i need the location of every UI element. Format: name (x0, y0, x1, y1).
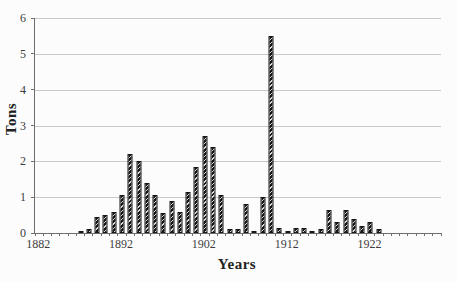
x-tick (184, 233, 185, 236)
y-axis-tick-labels: 0123456 (0, 18, 29, 233)
x-tick (291, 233, 292, 236)
bar-1914 (302, 228, 307, 233)
bar-1899 (177, 212, 182, 234)
x-tick (432, 233, 433, 236)
x-tick (250, 233, 251, 236)
year-slot-1883 (43, 18, 51, 233)
bar-1909 (260, 197, 265, 233)
y-tick-label-2: 2 (20, 154, 26, 169)
y-tick-1 (31, 197, 35, 198)
x-tick (109, 233, 110, 236)
bar-1889 (95, 217, 100, 233)
y-tick-4 (31, 89, 35, 90)
bar-1908 (252, 231, 257, 233)
bar-1919 (343, 210, 348, 233)
year-slot-1889 (93, 18, 101, 233)
year-slot-1923 (375, 18, 383, 233)
x-tick (51, 233, 52, 236)
bar-chart-figure: Tons 0123456 18821892190219121922 Years (0, 0, 457, 282)
x-tick (407, 233, 408, 236)
y-tick-label-1: 1 (20, 190, 26, 205)
year-slot-1885 (60, 18, 68, 233)
year-slot-1893 (126, 18, 134, 233)
x-tick (217, 233, 218, 236)
x-axis-tick-labels: 18821892190219121922 (34, 237, 440, 251)
bar-1898 (169, 201, 174, 233)
x-tick (266, 233, 267, 236)
year-slot-1912 (283, 18, 291, 233)
x-tick-label-1912: 1912 (275, 237, 299, 252)
plot-area (34, 18, 441, 234)
x-tick (308, 233, 309, 236)
x-tick (43, 233, 44, 236)
x-tick (300, 233, 301, 236)
bar-1890 (103, 215, 108, 233)
bar-1896 (153, 195, 158, 233)
bar-1907 (244, 204, 249, 233)
year-slot-1897 (159, 18, 167, 233)
x-tick-label-1902: 1902 (192, 237, 216, 252)
x-tick (275, 233, 276, 236)
bar-1913 (293, 228, 298, 233)
x-tick (76, 233, 77, 236)
bar-1920 (351, 219, 356, 233)
bar-1915 (310, 231, 315, 233)
year-slot-1907 (242, 18, 250, 233)
y-tick-6 (31, 18, 35, 19)
x-tick (150, 233, 151, 236)
bar-1892 (119, 195, 124, 233)
bar-1903 (211, 147, 216, 233)
year-slot-1921 (358, 18, 366, 233)
x-tick (441, 233, 442, 236)
year-slot-1887 (76, 18, 84, 233)
y-tick-label-3: 3 (20, 118, 26, 133)
year-slot-1918 (333, 18, 341, 233)
year-slot-1926 (399, 18, 407, 233)
bar-1904 (219, 195, 224, 233)
x-tick (68, 233, 69, 236)
year-slot-1888 (85, 18, 93, 233)
y-tick-label-5: 5 (20, 46, 26, 61)
year-slot-1905 (225, 18, 233, 233)
x-tick-label-1922: 1922 (358, 237, 382, 252)
y-tick-label-4: 4 (20, 82, 26, 97)
year-slot-1911 (275, 18, 283, 233)
x-tick (349, 233, 350, 236)
year-slot-1901 (192, 18, 200, 233)
bar-1917 (326, 210, 331, 233)
year-slot-1916 (317, 18, 325, 233)
x-tick (242, 233, 243, 236)
year-slot-1904 (217, 18, 225, 233)
x-tick (383, 233, 384, 236)
x-tick (341, 233, 342, 236)
year-slot-1920 (350, 18, 358, 233)
bar-1891 (111, 212, 116, 234)
year-slot-1929 (424, 18, 432, 233)
x-tick (101, 233, 102, 236)
year-slot-1925 (391, 18, 399, 233)
bar-1921 (360, 226, 365, 233)
bar-1923 (376, 229, 381, 233)
year-slot-1910 (267, 18, 275, 233)
x-tick (283, 233, 284, 236)
year-slot-1908 (250, 18, 258, 233)
x-tick (84, 233, 85, 236)
x-tick (35, 233, 36, 236)
x-tick (391, 233, 392, 236)
x-tick (59, 233, 60, 236)
y-tick-3 (31, 125, 35, 126)
year-slot-1922 (366, 18, 374, 233)
year-slot-1903 (209, 18, 217, 233)
year-slot-1906 (234, 18, 242, 233)
y-tick-5 (31, 53, 35, 54)
x-tick (192, 233, 193, 236)
year-slot-1895 (143, 18, 151, 233)
bar-1887 (78, 231, 83, 233)
bar-1918 (335, 222, 340, 233)
year-slot-1928 (416, 18, 424, 233)
x-tick-label-1882: 1882 (26, 237, 50, 252)
x-tick (358, 233, 359, 236)
year-slot-1917 (325, 18, 333, 233)
x-tick (175, 233, 176, 236)
bar-1916 (318, 229, 323, 233)
